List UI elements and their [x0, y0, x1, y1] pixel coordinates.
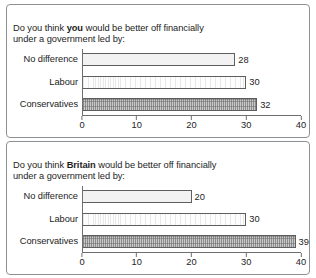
bar-row: No difference 20 — [13, 190, 301, 203]
bar-conservatives — [82, 98, 257, 111]
x-tick-label: 20 — [186, 120, 196, 131]
chart-title-britain: Do you think Britain would be better off… — [13, 148, 301, 183]
bar-value-label: 32 — [257, 99, 270, 110]
y-axis-line — [82, 186, 83, 254]
x-tick: 40 — [296, 253, 306, 268]
bar-value-label: 30 — [246, 77, 259, 88]
bar-value-label: 30 — [246, 214, 259, 225]
bar-track: 32 — [82, 98, 301, 111]
bar-labour — [82, 213, 246, 226]
x-tick-label: 10 — [132, 257, 142, 268]
chart-panel-you: Do you think you would be better off fin… — [6, 4, 310, 138]
x-tick: 0 — [79, 253, 84, 268]
category-label: Labour — [13, 77, 82, 88]
x-tick-label: 40 — [296, 257, 306, 268]
bar-track: 30 — [82, 76, 301, 89]
y-axis-line — [82, 49, 83, 117]
bar-rows-you: No difference 28 Labour 30 Conservatives — [13, 49, 301, 117]
bar-row: Labour 30 — [13, 213, 301, 226]
x-tick: 0 — [79, 116, 84, 131]
chart-title-emphasis: Britain — [67, 160, 96, 170]
x-axis-ticks-you: 010203040 — [82, 116, 301, 133]
plot-area-you: No difference 28 Labour 30 Conservatives — [13, 49, 301, 134]
x-tick-label: 0 — [79, 120, 84, 131]
bar-no-difference — [82, 190, 192, 203]
x-tick-label: 30 — [241, 257, 251, 268]
x-tick: 10 — [132, 116, 142, 131]
chart-title-prefix: Do you think — [13, 160, 67, 170]
x-tick-label: 30 — [241, 120, 251, 131]
bar-row: No difference 28 — [13, 53, 301, 66]
bar-no-difference — [82, 53, 235, 66]
x-tick-label: 0 — [79, 257, 84, 268]
bar-value-label: 39 — [296, 236, 309, 247]
category-label: Conservatives — [13, 99, 82, 110]
x-tick: 40 — [296, 116, 306, 131]
chart-panel-britain: Do you think Britain would be better off… — [6, 141, 310, 275]
bar-value-label: 28 — [235, 54, 248, 65]
x-tick: 30 — [241, 116, 251, 131]
plot-area-britain: No difference 20 Labour 30 Conservatives — [13, 186, 301, 271]
x-tick-label: 40 — [296, 120, 306, 131]
x-tick: 20 — [186, 253, 196, 268]
bar-row: Labour 30 — [13, 76, 301, 89]
x-tick-label: 10 — [132, 120, 142, 131]
category-label: Labour — [13, 214, 82, 225]
bar-value-label: 20 — [192, 191, 205, 202]
bar-row: Conservatives 32 — [13, 98, 301, 111]
x-tick: 30 — [241, 253, 251, 268]
x-tick-label: 20 — [186, 257, 196, 268]
x-tick: 20 — [186, 116, 196, 131]
bar-track: 39 — [82, 235, 301, 248]
bar-row: Conservatives 39 — [13, 235, 301, 248]
category-label: Conservatives — [13, 236, 82, 247]
x-axis-ticks-britain: 010203040 — [82, 253, 301, 270]
bar-rows-britain: No difference 20 Labour 30 Conservatives — [13, 186, 301, 254]
bar-labour — [82, 76, 246, 89]
bar-track: 28 — [82, 53, 301, 66]
category-label: No difference — [13, 54, 82, 65]
category-label: No difference — [13, 191, 82, 202]
charts-page: Do you think you would be better off fin… — [0, 0, 316, 278]
chart-title-emphasis: you — [67, 23, 83, 33]
x-tick: 10 — [132, 253, 142, 268]
bar-track: 30 — [82, 213, 301, 226]
chart-title-you: Do you think you would be better off fin… — [13, 11, 301, 46]
bar-track: 20 — [82, 190, 301, 203]
bar-conservatives — [82, 235, 296, 248]
chart-title-prefix: Do you think — [13, 23, 67, 33]
